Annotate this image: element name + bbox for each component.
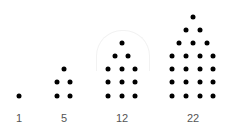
dot [106,80,111,85]
figure-label: 5 [61,112,67,124]
pentagonal-numbers-diagram: 151222 [0,0,229,132]
dot [205,41,210,46]
dot [120,67,125,72]
dot [184,28,189,33]
dot [62,67,67,72]
dot [198,94,203,99]
dot [198,67,203,72]
dot [133,80,138,85]
dot [68,94,73,99]
dot [191,15,196,20]
dot [113,54,118,59]
dot [55,94,60,99]
dot [211,67,216,72]
figure-label: 22 [187,112,199,124]
dot [211,80,216,85]
dot [184,80,189,85]
dot [133,67,138,72]
dot [184,54,189,59]
dot [177,41,182,46]
dot [55,80,60,85]
dot [211,94,216,99]
dot [17,94,22,99]
dot [198,80,203,85]
faint-arc-decoration [96,30,150,71]
dot [126,54,131,59]
dot [191,41,196,46]
dot [184,94,189,99]
dot [120,94,125,99]
dot [120,80,125,85]
dot [198,54,203,59]
dot [211,54,216,59]
dot [106,94,111,99]
dot [184,67,189,72]
figure-label: 1 [16,112,22,124]
dot [68,80,73,85]
figure-label: 12 [116,112,128,124]
dot [170,54,175,59]
dot [198,28,203,33]
dot [170,94,175,99]
dot [106,67,111,72]
dot [120,41,125,46]
dot [170,67,175,72]
dot [170,80,175,85]
dot [133,94,138,99]
